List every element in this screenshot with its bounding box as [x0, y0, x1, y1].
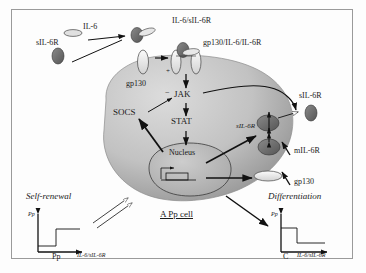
self-renewal-x-origin-label: Pp	[52, 253, 60, 261]
pointer-gp130-label	[282, 172, 290, 185]
self-renewal-ylabel: Pp	[28, 211, 35, 217]
label-cell-title: A Pp cell	[160, 210, 193, 219]
il6-sil6r-complex-cytokine	[138, 26, 156, 37]
arrow-differentiation	[226, 196, 268, 226]
label-sil6r-shed-inner: sIL-6R	[236, 123, 255, 130]
il6-ligand	[64, 30, 82, 37]
label-stat: STAT	[171, 117, 192, 126]
self-renewal-plot-curve	[38, 229, 80, 246]
label-jak: JAK	[174, 90, 191, 99]
label-self-renewal: Self-renewal	[26, 192, 71, 201]
differentiation-ylabel: Pp	[271, 211, 278, 217]
label-gp130-membrane: gp130	[126, 80, 146, 88]
arrow-il6-to-complex	[88, 36, 125, 40]
arrow-self-renewal-double	[93, 198, 132, 228]
differentiation-x-origin-label: C	[283, 253, 288, 261]
label-sil6r-shed-outer: sIL-6R	[299, 92, 322, 100]
differentiation-xlabel: IL-6/sIL-6R	[297, 252, 325, 258]
label-sil6r-free: sIL-6R	[36, 39, 59, 47]
label-il6-sil6r-complex: IL-6/sIL-6R	[172, 17, 211, 25]
gp130-membrane-receptor	[254, 171, 282, 181]
sil6r-ligand	[52, 48, 64, 64]
label-il6: IL-6	[83, 23, 97, 31]
gp130-receptor-monomer	[138, 50, 149, 74]
label-differentiation: Differentiation	[268, 192, 321, 201]
label-mil6r: mIL-6R	[294, 147, 320, 155]
label-gp130-right: gp130	[294, 178, 314, 186]
label-gp130-complex: gp130/IL-6/IL-6R	[203, 39, 261, 47]
label-minus-sign: −	[165, 89, 170, 97]
arrow-sil6r-to-complex	[72, 40, 122, 62]
mil6r-upper-receptor	[257, 115, 279, 131]
differentiation-plot-axes	[281, 214, 327, 252]
label-socs: SOCS	[113, 108, 136, 117]
self-renewal-xlabel: IL-6/sIL-6R	[77, 252, 105, 258]
label-nucleus: Nucleus	[169, 149, 195, 157]
differentiation-plot-curve	[281, 228, 325, 243]
diagram-canvas: IL-6 sIL-6R IL-6/sIL-6R gp130/IL-6/IL-6R…	[0, 0, 366, 273]
sil6r-released	[305, 105, 317, 121]
label-plus-sign: +	[166, 68, 170, 75]
